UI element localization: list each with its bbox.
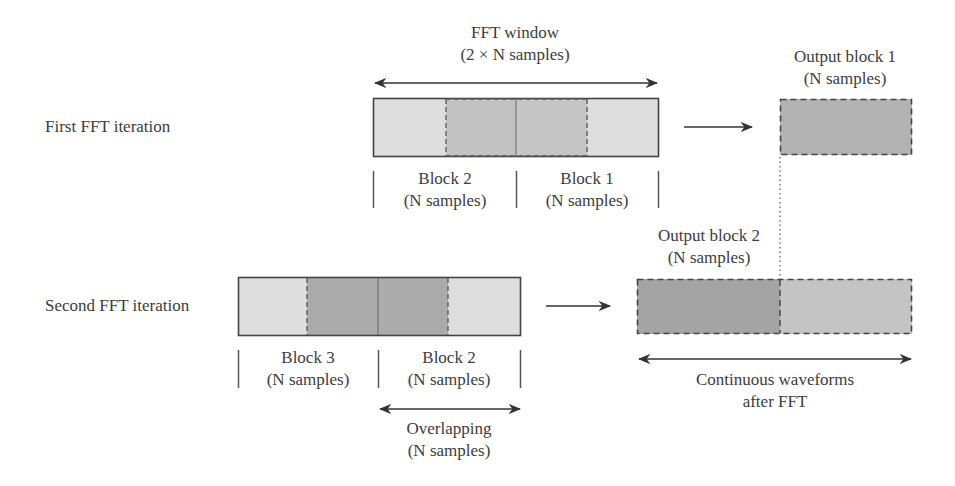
continuous-waveforms-sublabel: after FFT <box>660 391 890 412</box>
output-block-1-samples: (N samples) <box>770 68 920 89</box>
block-1-label: Block 1 <box>522 168 652 189</box>
block-1-samples: (N samples) <box>522 190 652 211</box>
block-2-label: Block 2 <box>380 168 510 189</box>
block-3-label: Block 3 <box>243 347 373 368</box>
output-block-2-samples: (N samples) <box>634 247 784 268</box>
overlapping-samples: (N samples) <box>384 440 514 461</box>
continuous-waveforms-label: Continuous waveforms <box>660 369 890 390</box>
block-2b-samples: (N samples) <box>384 369 514 390</box>
overlapping-label: Overlapping <box>384 418 514 439</box>
block-2-samples: (N samples) <box>380 190 510 211</box>
block-2b-label: Block 2 <box>384 347 514 368</box>
block-3-samples: (N samples) <box>243 369 373 390</box>
output-block-1-label: Output block 1 <box>770 46 920 67</box>
output-block-2-label: Output block 2 <box>634 225 784 246</box>
